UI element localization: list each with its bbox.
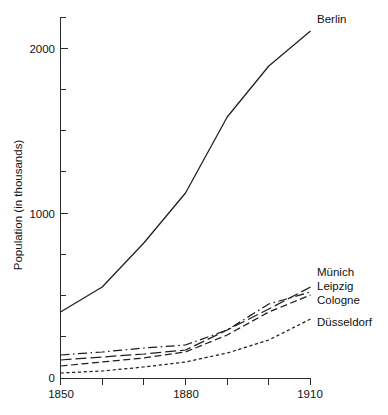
- y-axis-title: Population (in thousands): [12, 140, 24, 271]
- series-group: [61, 31, 311, 373]
- y-tick-label-1000: 1000: [29, 208, 55, 220]
- x-tick-label-1880: 1880: [173, 388, 199, 400]
- series-label-cologne: Cologne: [317, 294, 360, 306]
- y-axis: 2000 1000 0 Population (in thousands): [12, 17, 68, 384]
- series-line-cologne: [61, 295, 311, 366]
- series-label-berlin: Berlin: [317, 13, 346, 25]
- x-axis: 1850 1880 1910: [48, 379, 323, 401]
- series-label-munich: Münich: [317, 266, 354, 278]
- series-label-dusseldorf: Düsseldorf: [317, 316, 373, 328]
- series-line-munich: [61, 292, 311, 355]
- series-line-dusseldorf: [61, 319, 311, 373]
- series-line-berlin: [61, 31, 311, 312]
- series-labels: Berlin Münich Leipzig Cologne Düsseldorf: [317, 13, 373, 328]
- chart-canvas: 2000 1000 0 Population (in thousands) 18…: [0, 0, 388, 415]
- series-line-leipzig: [61, 287, 311, 360]
- population-line-chart: 2000 1000 0 Population (in thousands) 18…: [0, 0, 388, 415]
- y-tick-label-2000: 2000: [29, 43, 55, 55]
- series-label-leipzig: Leipzig: [317, 280, 353, 292]
- x-tick-label-1850: 1850: [48, 388, 74, 400]
- x-tick-label-1910: 1910: [297, 388, 323, 400]
- y-tick-label-0: 0: [49, 372, 55, 384]
